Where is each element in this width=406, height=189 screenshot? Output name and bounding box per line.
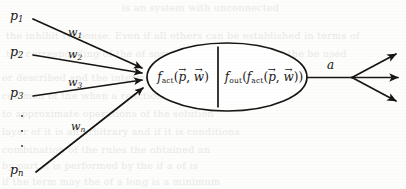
input-connections [33, 19, 143, 172]
weight-label-wn-subscript: n [80, 125, 85, 134]
input-line-p2 [33, 55, 142, 73]
weight-label-w1: w1 [68, 26, 82, 40]
neuron-diagram: is an system with unconnectedthe inhibit… [0, 0, 406, 189]
output-branch-upper [352, 54, 396, 78]
weight-label-w3: w3 [68, 76, 82, 90]
activation-fn-subscript: act [162, 76, 174, 85]
input-line-pn [36, 88, 143, 172]
ellipsis-dot [21, 145, 23, 147]
input-label-p3: p3 [10, 85, 23, 101]
activation-comma: , [186, 70, 194, 84]
activation-arg-w: →w [194, 70, 204, 84]
activation-close-paren: ) [204, 70, 209, 84]
output-branch-lower [352, 78, 396, 102]
input-label-p1-subscript: 1 [18, 14, 23, 24]
output-arg-w: →w [284, 70, 294, 84]
vector-arrow-w-out: → [284, 65, 292, 75]
input-label-p3-subscript: 3 [18, 91, 23, 101]
vector-arrow-p-out: → [268, 65, 276, 75]
output-label-a: a [327, 58, 334, 72]
input-label-p2: p2 [10, 44, 23, 60]
output-connections [307, 54, 398, 101]
weight-label-w2: w2 [68, 48, 82, 62]
output-function-formula: fout(fact(→p, →w)) [221, 70, 307, 85]
input-label-pn-subscript: n [18, 168, 23, 178]
input-label-pn: pn [10, 162, 24, 178]
input-line-p3 [33, 80, 142, 96]
output-close-paren: ) [298, 70, 303, 84]
input-label-p1: p1 [10, 8, 23, 24]
vector-arrow-w-act: → [195, 65, 203, 75]
diagram-vector-layer [0, 0, 406, 189]
input-label-p2-subscript: 2 [18, 50, 23, 60]
weight-label-wn: wn [71, 120, 85, 134]
weight-label-w3-subscript: 3 [77, 81, 82, 90]
output-arg-p: →p [268, 70, 276, 84]
ellipsis-dot [21, 115, 23, 117]
activation-function-formula: fact(→p, →w) [150, 70, 216, 85]
output-inner-fn-subscript: act [251, 76, 263, 85]
activation-arg-p: →p [179, 70, 187, 84]
weight-label-w1-subscript: 1 [77, 31, 82, 40]
vertical-ellipsis [21, 115, 23, 160]
output-fn-subscript: out [229, 76, 242, 85]
ellipsis-dot [21, 130, 23, 132]
vector-arrow-p-act: → [178, 65, 186, 75]
output-comma: , [276, 70, 284, 84]
weight-label-w2-subscript: 2 [77, 53, 82, 62]
input-line-p1 [33, 19, 142, 68]
